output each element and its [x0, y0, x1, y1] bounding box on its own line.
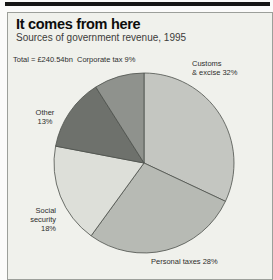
slice-label-social-line2: 18% [41, 224, 56, 233]
slice-label-customs-excise: Customs& excise 32% [192, 59, 237, 77]
slice-label-social-security: Social security18% [8, 206, 56, 233]
slice-label-personal-taxes: Personal taxes 28% [151, 257, 218, 266]
slice-label-social-line1: Social security [30, 206, 56, 224]
slice-label-other: Other13% [24, 108, 66, 126]
chart-title: It comes from here [16, 16, 140, 32]
top-rule-bar [5, 2, 270, 6]
chart-panel: It comes from here Sources of government… [7, 12, 273, 280]
slice-label-corporate-tax: Corporate tax 9% [77, 55, 135, 64]
pie-chart [8, 13, 271, 278]
slice-label-other-line2: 13% [37, 117, 52, 126]
slice-label-customs-line1: Customs [192, 59, 222, 68]
chart-panel-inner: It comes from here Sources of government… [8, 13, 271, 278]
chart-subtitle: Sources of government revenue, 1995 [16, 32, 186, 43]
slice-label-customs-line2: & excise 32% [192, 68, 237, 77]
total-label: Total = £240.54bn [13, 55, 73, 64]
slice-label-other-line1: Other [36, 108, 55, 117]
